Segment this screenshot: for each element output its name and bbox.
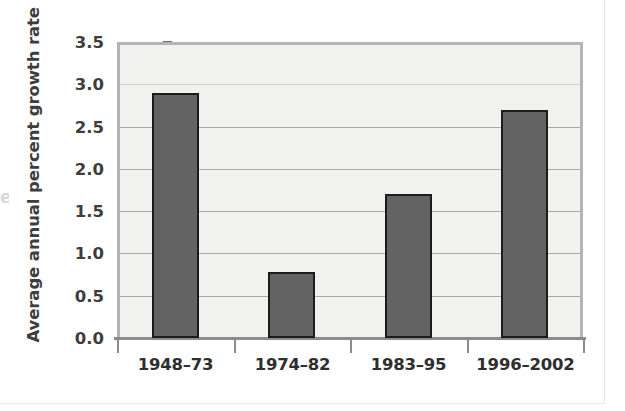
bar [268, 272, 315, 338]
y-axis-tick-label: 3.0 [56, 75, 104, 94]
x-axis-tick-mark [467, 340, 469, 353]
x-axis-tick-mark [583, 340, 585, 353]
y-axis-tick-label: 0.5 [56, 286, 104, 305]
y-axis-tick-group: 0.00.51.01.52.02.53.03.5 [56, 42, 104, 338]
x-axis-tick-mark [117, 340, 119, 353]
y-axis-tick-label: 3.5 [56, 33, 104, 52]
bar [501, 110, 548, 338]
y-axis-tick-label: 1.0 [56, 244, 104, 263]
y-axis-tick-label: 2.0 [56, 159, 104, 178]
y-axis-tick-label: 2.5 [56, 117, 104, 136]
y-axis-tick-label: 0.0 [56, 329, 104, 348]
bar [385, 194, 432, 338]
x-axis-tick-label: 1983–95 [350, 355, 467, 374]
bar [152, 93, 199, 338]
x-axis-tick-label: 1948–73 [117, 355, 234, 374]
x-axis-tick-mark [234, 340, 236, 353]
x-axis-tick-label: 1974–82 [234, 355, 351, 374]
y-axis-title: Average annual percent growth rate [24, 43, 43, 343]
x-axis-tick-mark [350, 340, 352, 353]
gridline [120, 84, 580, 85]
x-axis-tick-label: 1996–2002 [467, 355, 584, 374]
bar-chart-figure: Average annual percent growth rate 0.00.… [0, 0, 625, 411]
y-axis-tick-label: 1.5 [56, 202, 104, 221]
